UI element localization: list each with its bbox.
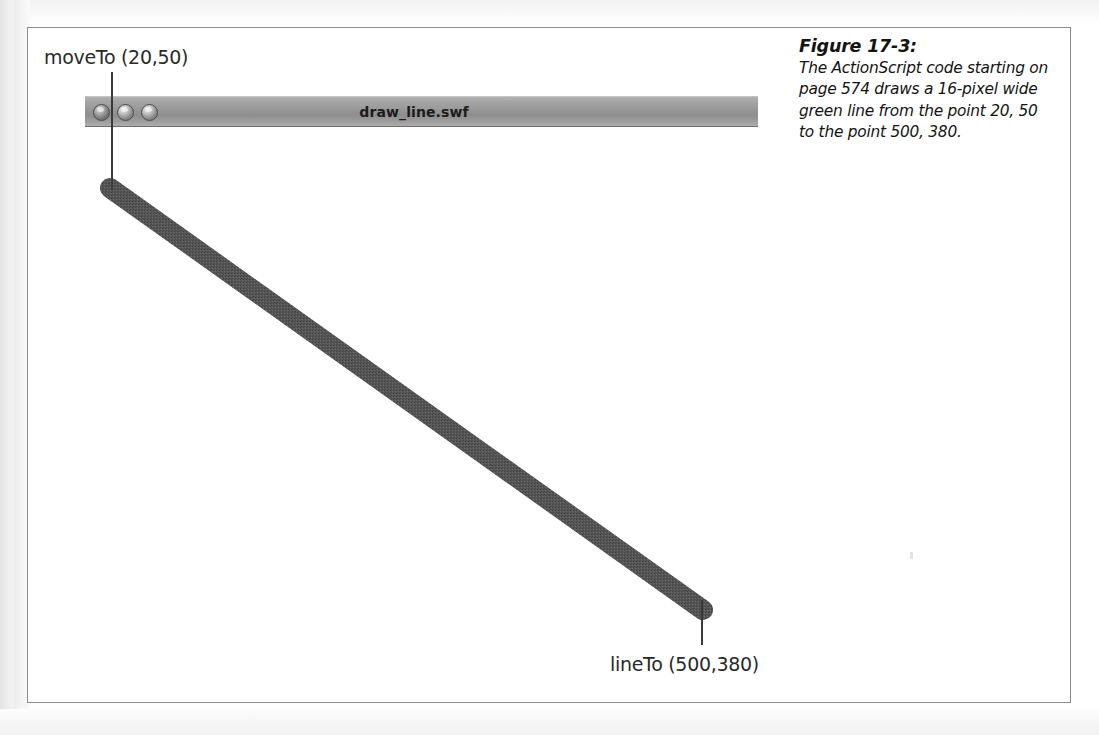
figure-caption-title: Figure 17-3: [799,36,1057,57]
window-title: draw_line.swf [85,97,758,128]
figure-page: Figure 17-3: The ActionScript code start… [0,0,1099,735]
annotation-lineto: lineTo (500,380) [610,653,759,675]
scan-artifact-speck [910,552,913,559]
figure-caption: Figure 17-3: The ActionScript code start… [799,36,1057,144]
annotation-moveto: moveTo (20,50) [44,46,188,68]
figure-caption-body: The ActionScript code starting on page 5… [799,58,1057,144]
scan-edge-left-inner [0,0,14,735]
scan-edge-bottom [0,709,1099,735]
swf-window: draw_line.swf [85,96,758,127]
window-titlebar[interactable]: draw_line.swf [85,96,758,127]
scan-edge-top [0,0,1099,22]
